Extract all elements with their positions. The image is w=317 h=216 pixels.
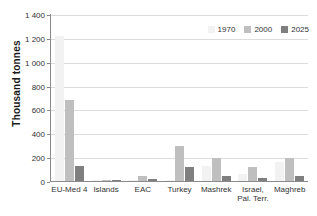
bar xyxy=(148,179,157,181)
bar-group xyxy=(51,14,88,181)
bar xyxy=(248,167,257,181)
bar xyxy=(165,180,174,181)
y-axis-tick xyxy=(47,110,50,111)
x-axis-line xyxy=(50,181,308,182)
x-axis-label: Mashrek xyxy=(198,185,235,203)
y-axis-tick xyxy=(47,63,50,64)
y-axis-tick xyxy=(47,15,50,16)
y-axis-tick xyxy=(47,39,50,40)
bar-group xyxy=(271,14,308,181)
bar xyxy=(138,176,147,181)
legend-item-2000: 2000 xyxy=(244,25,272,34)
legend-label-1970: 1970 xyxy=(218,25,236,34)
legend-item-2025: 2025 xyxy=(281,25,309,34)
bar-groups xyxy=(51,14,308,181)
y-axis-tick-label: 200 xyxy=(32,154,45,163)
bar-group xyxy=(161,14,198,181)
y-axis-tick-label: 1 400 xyxy=(25,11,45,20)
x-axis-label: Turkey xyxy=(161,185,198,203)
x-axis-label: Islands xyxy=(88,185,125,203)
bar-group xyxy=(235,14,272,181)
y-axis-tick xyxy=(47,158,50,159)
bar xyxy=(65,100,74,181)
y-axis-tick-label: 1 200 xyxy=(25,34,45,43)
x-axis-labels: EU-Med 4IslandsEACTurkeyMashrekIsrael,Pa… xyxy=(51,185,308,203)
y-axis-tick xyxy=(47,134,50,135)
bar xyxy=(258,178,267,181)
bar xyxy=(112,180,121,181)
bar xyxy=(185,167,194,181)
bar xyxy=(55,36,64,181)
y-axis-tick xyxy=(47,87,50,88)
legend-swatch-icon-2025 xyxy=(281,26,288,33)
y-axis-tick-label: 1 000 xyxy=(25,58,45,67)
bar xyxy=(295,176,304,181)
legend-label-2000: 2000 xyxy=(254,25,272,34)
chart-legend: 1970 2000 2025 xyxy=(203,25,309,34)
bar xyxy=(175,146,184,181)
y-axis-tick-label: 800 xyxy=(32,82,45,91)
bar-group xyxy=(88,14,125,181)
bar xyxy=(128,180,137,181)
bar xyxy=(222,176,231,181)
y-axis-tick-label: 600 xyxy=(32,106,45,115)
legend-item-1970: 1970 xyxy=(208,25,236,34)
bar xyxy=(202,166,211,182)
bar xyxy=(102,180,111,181)
bar xyxy=(212,158,221,181)
bar xyxy=(285,158,294,181)
y-axis-title: Thousand tonnes xyxy=(11,24,22,144)
y-axis-tick xyxy=(47,182,50,183)
y-axis-tick-label: 400 xyxy=(32,130,45,139)
bar-group xyxy=(124,14,161,181)
x-axis-label: EU-Med 4 xyxy=(51,185,88,203)
bar xyxy=(275,162,284,181)
y-axis-tick-label: 0 xyxy=(41,178,45,187)
x-axis-label: Maghreb xyxy=(271,185,308,203)
bar xyxy=(92,180,101,181)
bar xyxy=(238,174,247,181)
plot-area: 02004006008001 0001 2001 400 xyxy=(50,14,308,182)
legend-swatch-icon-1970 xyxy=(208,26,215,33)
bar-group xyxy=(198,14,235,181)
bar xyxy=(75,166,84,181)
x-axis-label: Israel,Pal. Terr. xyxy=(235,185,272,203)
bar-chart: Thousand tonnes 02004006008001 0001 2001… xyxy=(0,0,317,216)
legend-label-2025: 2025 xyxy=(291,25,309,34)
x-axis-label: EAC xyxy=(124,185,161,203)
legend-swatch-icon-2000 xyxy=(244,26,251,33)
